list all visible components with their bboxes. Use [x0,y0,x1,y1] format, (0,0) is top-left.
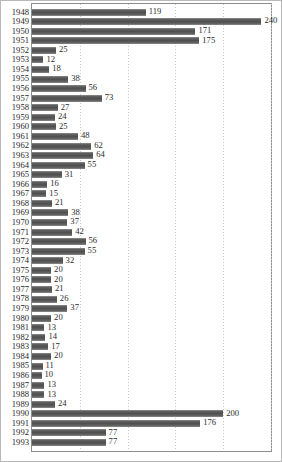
bar-row: 37 [32,304,271,313]
bar-row: 25 [32,46,271,55]
bar-value-label: 18 [52,64,61,73]
year-label: 1956 [0,84,29,93]
bar [32,315,51,322]
bar-value-label: 200 [226,409,239,418]
plot-area: 1192401711752512183856732724254862645531… [31,3,272,452]
bar [32,85,86,92]
bar-row: 171 [32,27,271,36]
bar [32,363,43,370]
bar [32,372,42,379]
bar [32,248,85,255]
bar [32,28,195,35]
bar [32,9,146,16]
bar [32,429,106,436]
bar-value-label: 26 [60,294,69,303]
year-label: 1986 [0,371,29,380]
bar-row: 62 [32,141,271,150]
bar [32,123,56,130]
bar-value-label: 25 [59,122,68,131]
bar-value-label: 55 [88,160,97,169]
bar [32,229,72,236]
bar [32,190,46,197]
bar [32,334,45,341]
bar-row: 20 [32,275,271,284]
bar-row: 13 [32,381,271,390]
bar-row: 20 [32,266,271,275]
bar-row: 14 [32,333,271,342]
bar-row: 77 [32,438,271,447]
bar-row: 15 [32,189,271,198]
bar-row: 24 [32,113,271,122]
year-label: 1963 [0,151,29,160]
bar-row: 37 [32,218,271,227]
bar-value-label: 24 [58,399,67,408]
bar [32,76,68,83]
bar-row: 17 [32,342,271,351]
bar [32,324,44,331]
bar-row: 200 [32,409,271,418]
bar-row: 38 [32,208,271,217]
year-label: 1993 [0,438,29,447]
bar-value-label: 37 [70,303,79,312]
bar [32,95,102,102]
bar-row: 25 [32,122,271,131]
gridline [271,4,272,451]
bar-value-label: 55 [88,246,97,255]
bar-row: 175 [32,36,271,45]
bar-value-label: 21 [55,198,64,207]
bar [32,181,47,188]
year-label: 1970 [0,218,29,227]
bar-rows: 1192401711752512183856732724254862645531… [32,4,271,451]
bar-row: 27 [32,103,271,112]
bar-row: 42 [32,228,271,237]
bar-row: 12 [32,55,271,64]
bar [32,401,55,408]
bar-row: 48 [32,132,271,141]
bar [32,104,58,111]
bar-row: 16 [32,180,271,189]
bar [32,353,51,360]
bar-row: 38 [32,74,271,83]
bar-value-label: 20 [54,351,63,360]
bar-value-label: 42 [75,227,84,236]
bar-row: 18 [32,65,271,74]
bar [32,343,48,350]
bar-row: 21 [32,199,271,208]
bar [32,410,223,417]
bar-row: 32 [32,256,271,265]
bar-value-label: 13 [47,380,56,389]
bar-value-label: 48 [81,131,90,140]
bar [32,276,51,283]
bar [32,66,49,73]
bar-value-label: 77 [109,437,118,446]
bar-value-label: 240 [264,16,277,25]
bar [32,382,44,389]
bar-value-label: 73 [105,93,114,102]
year-axis-labels: 1948194919501951195219531954195519561957… [0,3,29,452]
bar-row: 13 [32,390,271,399]
bar [32,200,52,207]
bar [32,114,55,121]
bar-value-label: 119 [149,7,162,16]
bar [32,18,261,25]
bar-row: 10 [32,371,271,380]
bar [32,162,85,169]
bar-value-label: 20 [54,313,63,322]
bar-value-label: 64 [96,150,105,159]
bar [32,47,56,54]
bar [32,439,106,446]
horizontal-bar-chart: 1948194919501951195219531954195519561957… [0,0,282,462]
bar-value-label: 32 [66,256,75,265]
bar-row: 11 [32,361,271,370]
bar-row: 31 [32,170,271,179]
bar-row: 56 [32,237,271,246]
bar-row: 20 [32,352,271,361]
bar [32,143,91,150]
bar [32,238,86,245]
chart-page: 1948194919501951195219531954195519561957… [0,0,282,462]
bar-value-label: 176 [203,418,216,427]
year-label: 1979 [0,304,29,313]
bar [32,56,43,63]
bar [32,286,52,293]
bar [32,391,44,398]
